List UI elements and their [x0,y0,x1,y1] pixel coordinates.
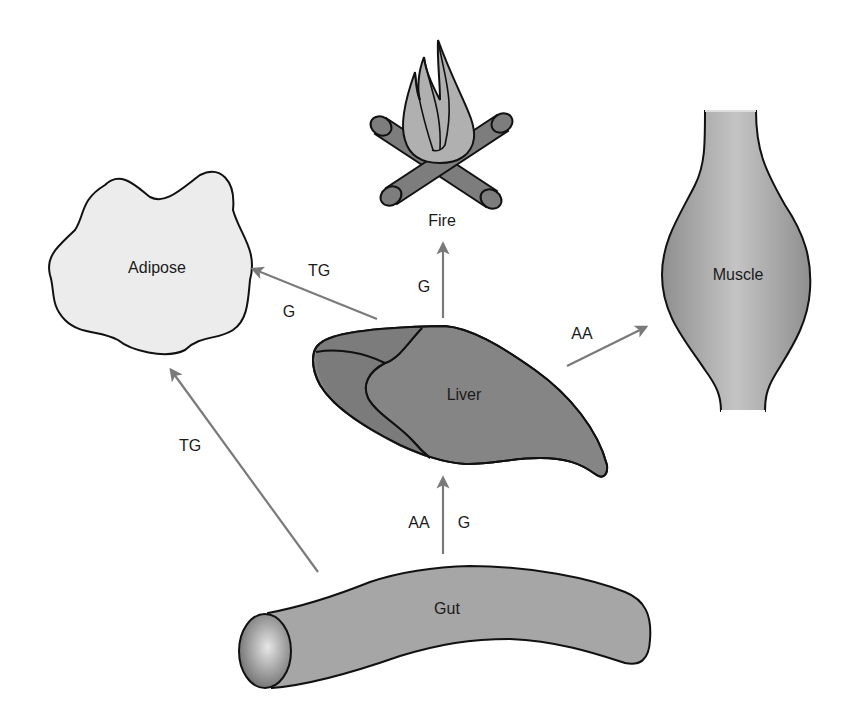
edge-label-liver-adipose-g: G [283,303,295,320]
edge-label-liver-muscle-aa: AA [571,325,593,342]
liver-label: Liver [447,386,482,403]
edge-label-liver-adipose-tg: TG [308,262,330,279]
muscle-shape [662,111,810,411]
metabolism-diagram: Fire Adipose Muscle Liver Gut G TG G AA [0,0,846,715]
gut-opening [239,614,291,688]
fire-label: Fire [428,212,456,229]
flame-icon [403,40,474,163]
edge-label-gut-liver-aa: AA [408,514,430,531]
muscle-bottom-cut [721,410,765,412]
edge-label-liver-fire-g: G [418,278,430,295]
muscle-label: Muscle [713,266,764,283]
edge-label-gut-liver-g: G [458,514,470,531]
gut-label: Gut [434,600,460,617]
edge-label-gut-adipose-tg: TG [179,437,201,454]
gut-shape [239,566,650,688]
arrow-gut-to-adipose [171,370,318,572]
fire-icon [367,40,516,213]
adipose-label: Adipose [128,259,186,276]
